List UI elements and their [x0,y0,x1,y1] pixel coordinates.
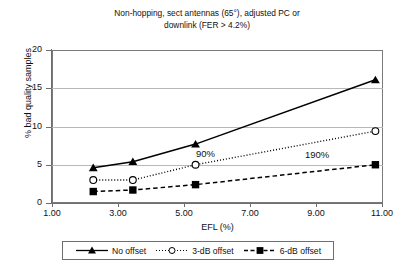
marker-square [192,181,199,188]
marker-triangle [371,76,380,84]
series-layer [0,0,402,275]
legend-swatch-triangle-solid [75,245,109,256]
marker-circle [129,177,136,184]
legend-item-no-offset[interactable]: No offset [75,245,146,256]
marker-circle [192,161,199,168]
annotation-90: 90% [196,148,215,159]
legend-label-no-offset: No offset [112,246,146,256]
marker-square [129,186,136,193]
chart-figure: Non-hopping, sect antennas (65°), adjust… [0,0,402,275]
legend-label-3db-offset: 3-dB offset [192,246,233,256]
marker-square [90,188,97,195]
marker-circle [372,128,379,135]
marker-circle [90,177,97,184]
legend-swatch-circle-dotted [155,245,189,256]
legend-label-6db-offset: 6-dB offset [280,246,321,256]
series-line [93,80,375,168]
legend: No offset 3-dB offset 6-dB offset [62,241,334,260]
legend-swatch-square-dashed [243,245,277,256]
series-3-db-offset [90,128,379,184]
legend-item-3db-offset[interactable]: 3-dB offset [155,245,233,256]
series-no-offset [89,76,380,172]
marker-square [372,161,379,168]
legend-item-6db-offset[interactable]: 6-dB offset [243,245,321,256]
annotation-190: 190% [305,149,329,160]
series-line [93,131,375,180]
